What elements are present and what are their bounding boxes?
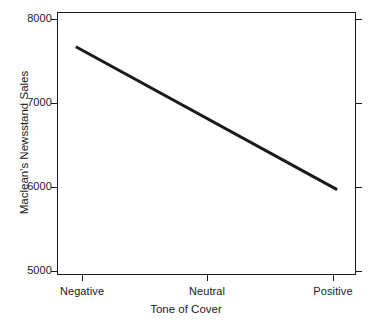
x-tick-mark-neutral: [207, 275, 208, 281]
y-tick-mark-right-7000: [356, 103, 362, 104]
y-tick-mark-right-8000: [356, 19, 362, 20]
y-axis-title: Maclean's Newsstand Sales: [18, 3, 31, 283]
y-tick-mark-right-6000: [356, 187, 362, 188]
chart-figure: 8000 7000 6000 5000 Negative Neutral Pos…: [0, 0, 372, 323]
x-tick-mark-negative: [82, 275, 83, 281]
trend-line-series-1: [76, 47, 337, 190]
x-tick-label-negative: Negative: [37, 285, 127, 297]
plot-area: [57, 12, 356, 275]
x-axis-title: Tone of Cover: [0, 303, 372, 316]
y-tick-mark-right-5000: [356, 271, 362, 272]
data-layer: [58, 13, 355, 274]
x-tick-mark-positive: [333, 275, 334, 281]
x-tick-label-neutral: Neutral: [162, 285, 252, 297]
x-tick-label-positive: Positive: [288, 285, 372, 297]
